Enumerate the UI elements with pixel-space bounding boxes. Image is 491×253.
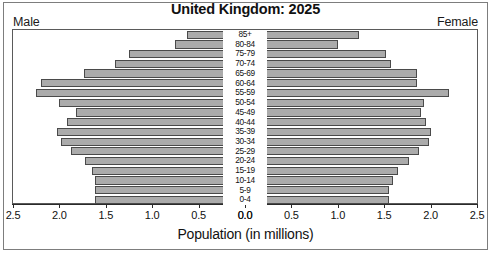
- chart-title: United Kingdom: 2025: [0, 1, 491, 17]
- male-bar: [59, 99, 245, 107]
- x-tick-left-label: 2.5: [6, 209, 21, 221]
- male-bar: [67, 118, 245, 126]
- x-tick-right-label: 1.0: [330, 209, 345, 221]
- male-bar: [61, 138, 245, 146]
- male-bar: [57, 128, 245, 136]
- x-tick-left-label: 2.0: [52, 209, 67, 221]
- male-bar: [76, 108, 245, 116]
- x-tick-right-mark: [477, 204, 478, 208]
- female-side-label: Female: [437, 15, 478, 29]
- x-tick-right-label: 0.5: [284, 209, 299, 221]
- x-tick-right-mark: [431, 204, 432, 208]
- male-side-label: Male: [13, 15, 40, 29]
- female-bar: [245, 176, 393, 184]
- x-tick-left-label: 1.5: [98, 209, 113, 221]
- x-tick-right-mark: [291, 204, 292, 208]
- female-bar: [245, 128, 431, 136]
- female-bar: [245, 157, 409, 165]
- x-tick-left-mark: [106, 204, 107, 208]
- x-tick-left-mark: [59, 204, 60, 208]
- pyramid-rows: 85+80-8475-7970-7465-6960-6455-5950-5445…: [13, 30, 477, 203]
- x-tick-right-label: 2.5: [470, 209, 485, 221]
- female-bar: [245, 79, 417, 87]
- female-bar: [245, 118, 426, 126]
- female-bar: [245, 99, 424, 107]
- population-pyramid-figure: United Kingdom: 2025 Male Female 85+80-8…: [0, 0, 491, 253]
- female-bar: [245, 108, 421, 116]
- male-bar: [84, 69, 245, 77]
- x-tick-left-label: 0.5: [191, 209, 206, 221]
- age-group-label: 0-4: [223, 195, 267, 205]
- x-axis-title: Population (in millions): [0, 226, 491, 242]
- x-tick-right-label: 1.5: [377, 209, 392, 221]
- plot-area: 85+80-8475-7970-7465-6960-6455-5950-5445…: [12, 29, 478, 204]
- x-tick-left-mark: [199, 204, 200, 208]
- male-bar: [85, 157, 245, 165]
- female-bar: [245, 147, 419, 155]
- female-bar: [245, 167, 398, 175]
- x-tick-left-label: 1.0: [145, 209, 160, 221]
- female-bar: [245, 138, 429, 146]
- x-tick-left-mark: [13, 204, 14, 208]
- x-tick-right-label: 2.0: [423, 209, 438, 221]
- male-bar: [41, 79, 245, 87]
- male-bar: [36, 89, 245, 97]
- x-tick-right-mark: [384, 204, 385, 208]
- x-tick-left-mark: [152, 204, 153, 208]
- female-bar: [245, 69, 417, 77]
- x-tick-right-label: 0.0: [238, 209, 253, 221]
- male-bar: [71, 147, 245, 155]
- x-tick-right-mark: [338, 204, 339, 208]
- female-bar: [245, 89, 449, 97]
